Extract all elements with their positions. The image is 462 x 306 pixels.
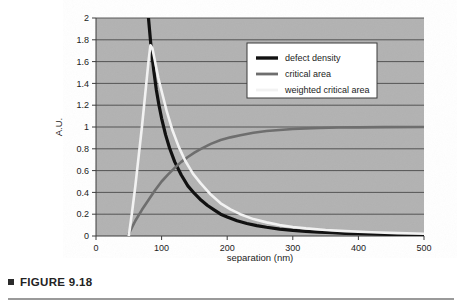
caption-divider	[8, 298, 454, 300]
y-tick-label: 1.2	[76, 100, 89, 110]
y-tick-label: 0.4	[76, 188, 89, 198]
figure-container: 00.20.40.60.811.21.41.61.82 010020030040…	[0, 0, 462, 306]
y-tick-label: 1.4	[76, 79, 89, 89]
x-tick-label: 400	[351, 243, 366, 253]
chart-legend: defect densitycritical areaweighted crit…	[247, 43, 377, 98]
y-tick-label: 2	[84, 13, 89, 23]
y-tick-label: 0.8	[76, 144, 89, 154]
x-tick-label: 500	[416, 243, 431, 253]
y-tick-label: 0.6	[76, 166, 89, 176]
y-axis-ticks: 00.20.40.60.811.21.41.61.82	[76, 13, 96, 241]
y-tick-label: 0	[84, 231, 89, 241]
square-bullet-icon	[8, 279, 14, 285]
y-tick-label: 1	[84, 122, 89, 132]
figure-caption: FIGURE 9.18	[8, 276, 92, 288]
y-tick-label: 0.2	[76, 209, 89, 219]
x-tick-label: 100	[154, 243, 169, 253]
x-axis-ticks: 0100200300400500	[93, 236, 431, 253]
y-tick-label: 1.8	[76, 35, 89, 45]
figure-caption-text: FIGURE 9.18	[20, 276, 92, 288]
y-tick-label: 1.6	[76, 57, 89, 67]
legend-label: defect density	[285, 53, 341, 63]
legend-label: weighted critical area	[284, 85, 370, 95]
chart-area: 00.20.40.60.811.21.41.61.82 010020030040…	[0, 0, 462, 268]
legend-label: critical area	[285, 69, 331, 79]
line-chart: 00.20.40.60.811.21.41.61.82 010020030040…	[0, 0, 462, 268]
x-axis-title: separation (nm)	[227, 252, 294, 263]
x-tick-label: 0	[93, 243, 98, 253]
y-axis-title: A.U.	[53, 118, 64, 136]
